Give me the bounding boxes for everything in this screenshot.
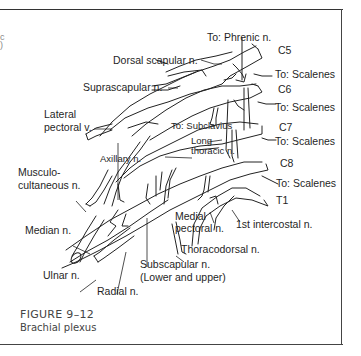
root-label-c8: C8 [280,157,293,169]
label-long-thoracic-line2: thoracic n. [191,145,235,156]
label-phrenic-nerve: To: Phrenic n. [207,31,271,43]
label-lateral-pectoral-line2: pectoral v. [44,121,92,133]
label-radial-nerve: Radial n. [97,285,138,297]
label-to-scalenes-3: To: Scalenes [275,135,335,147]
figure-caption: FIGURE 9–12 Brachial plexus [20,308,96,334]
label-medial-pectoral-line2: pectoral n. [175,222,224,234]
figure-title: Brachial plexus [20,321,96,334]
label-thoracodorsal-nerve: Thoracodorsal n. [181,243,260,255]
label-1st-intercostal-nerve: 1st intercostal n. [236,218,312,230]
label-suprascapular-nerve: Suprascapular n. [83,81,162,93]
label-musculocutaneous-line1: Musculo- [18,166,61,178]
root-label-c7: C7 [279,121,292,133]
label-ulnar-nerve: Ulnar n. [43,269,80,281]
label-to-scalenes-1: To: Scalenes [275,68,335,80]
root-label-c5: C5 [278,44,291,56]
label-subscapular-line1: Subscapular n. [140,258,210,270]
label-subscapular-line2: (Lower and upper) [140,271,226,283]
root-label-t1: T1 [276,194,288,206]
root-label-c6: C6 [278,83,291,95]
label-lateral-pectoral-line1: Lateral [44,108,76,120]
label-to-scalenes-4: To: Scalenes [276,177,336,189]
figure-number: FIGURE 9–12 [20,308,96,321]
label-musculocutaneous-line2: cultaneous n. [18,179,80,191]
label-to-subclavius: To: Subclavius [171,120,232,131]
label-median-nerve: Median n. [25,224,71,236]
label-dorsal-scapular-nerve: Dorsal scapular n. [113,54,198,66]
label-medial-pectoral-line1: Medial [175,210,206,222]
label-axillary-nerve: Axillary n. [100,153,141,164]
label-to-scalenes-2: To: Scalenes [275,101,335,113]
